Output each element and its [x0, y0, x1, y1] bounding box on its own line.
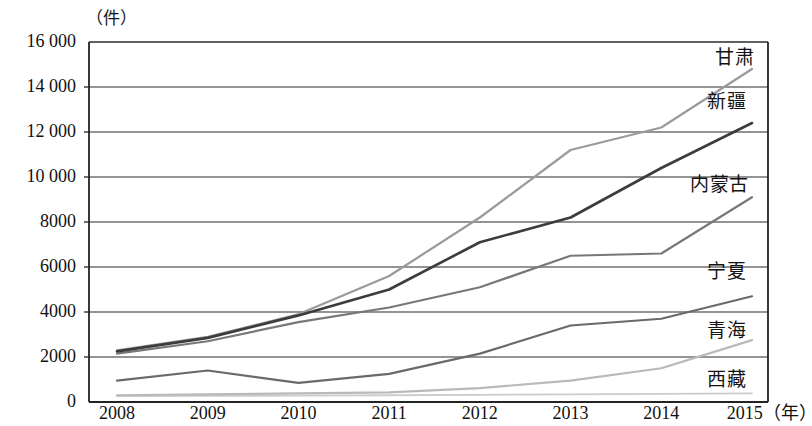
x-axis-tick-label: 2010	[280, 404, 316, 422]
x-axis-tick-labels: 20082009201020112012201320142015（年）	[0, 401, 812, 426]
x-axis-tick-label: 2011	[371, 404, 406, 422]
series-line	[117, 123, 752, 351]
series-label-6: 西藏	[707, 370, 746, 389]
x-axis-tick-label: 2009	[190, 404, 226, 422]
x-axis-tick-label: 2015（年）	[727, 404, 812, 422]
gridlines	[89, 42, 768, 357]
x-axis-tick-label: 2013	[553, 404, 589, 422]
series-label-2: 新疆	[707, 92, 746, 111]
x-axis-tick-label: 2008	[99, 404, 135, 422]
line-chart: （件） 0200040006000800010 00012 00014 0001…	[0, 0, 812, 426]
series-label-3: 内蒙古	[690, 175, 749, 194]
x-axis-tick-label: 2014	[643, 404, 679, 422]
chart-plot-area	[0, 0, 812, 426]
series-label-1: 甘肃	[715, 48, 754, 67]
series-line	[117, 340, 752, 395]
data-series-group	[117, 69, 752, 396]
series-line	[117, 197, 752, 353]
series-line	[117, 69, 752, 350]
x-axis-tick-label: 2012	[462, 404, 498, 422]
series-label-4: 宁夏	[707, 262, 746, 281]
series-label-5: 青海	[707, 321, 746, 340]
